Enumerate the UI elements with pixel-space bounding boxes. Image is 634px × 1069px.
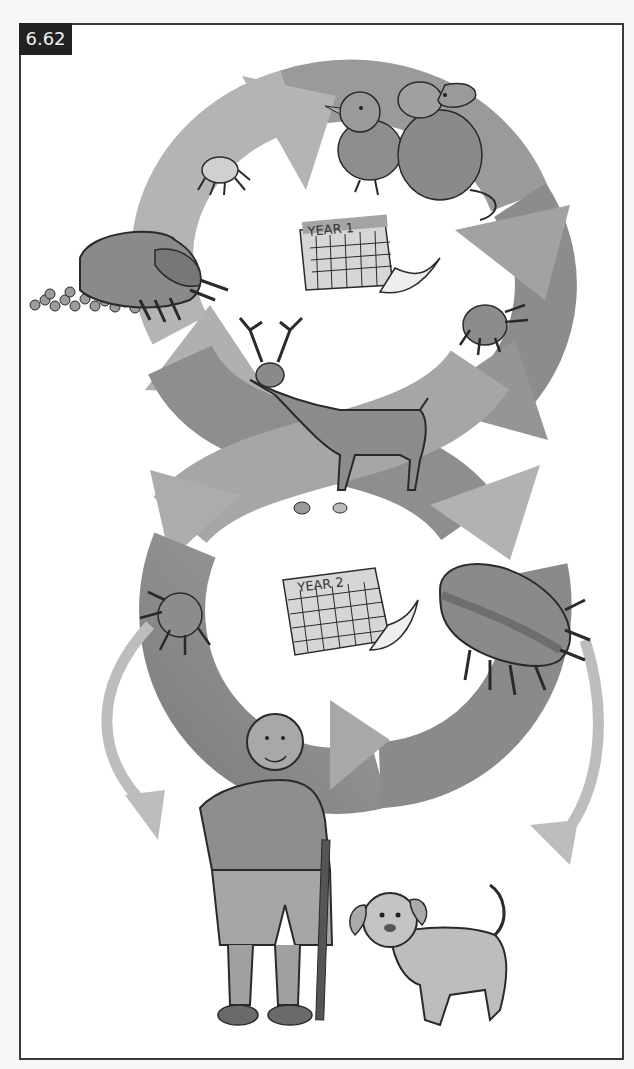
tick-lifecycle-illustration: YEAR 1 YEAR 2: [0, 0, 634, 1069]
dog: [350, 885, 506, 1025]
calendar-year-2: YEAR 2: [283, 568, 418, 655]
calendar-year-1: YEAR 1: [300, 215, 440, 293]
bird-and-mouse: [325, 82, 496, 220]
